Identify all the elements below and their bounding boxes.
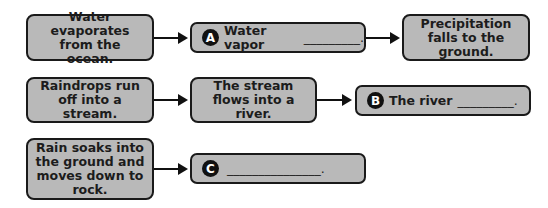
label-c-badge: C [202, 160, 219, 177]
label-a-badge: A [202, 29, 219, 46]
arrow-icon [366, 37, 398, 39]
arrow-icon [154, 99, 186, 101]
step-text: The stream flows into a river. [204, 79, 304, 121]
step-text: Rain soaks into the ground and moves dow… [31, 141, 149, 197]
arrow-icon [154, 168, 186, 170]
step-b-river: B The river _________. [355, 85, 531, 116]
step-text: The river [389, 94, 453, 108]
step-text: Raindrops run off into a stream. [35, 79, 145, 121]
answer-blank-a: _________. [304, 31, 364, 45]
step-c-blank: C _______________. [190, 153, 366, 184]
step-precipitation: Precipitation falls to the ground. [402, 14, 530, 61]
step-text: Precipitation falls to the ground. [411, 17, 521, 59]
label-b-badge: B [367, 92, 384, 109]
step-rain-soaks: Rain soaks into the ground and moves dow… [26, 138, 154, 200]
step-a-water-vapor: A Water vapor _________. [190, 22, 366, 53]
arrow-icon [317, 99, 350, 101]
arrow-icon [154, 37, 186, 39]
step-water-evaporates: Water evaporates from the ocean. [26, 14, 154, 61]
step-stream-flows: The stream flows into a river. [190, 77, 317, 123]
step-text: Water evaporates from the ocean. [35, 10, 145, 66]
step-raindrops-run-off: Raindrops run off into a stream. [26, 77, 154, 123]
step-text: Water vapor [224, 24, 299, 52]
answer-blank-b: _________. [458, 94, 518, 108]
answer-blank-c: _______________. [227, 162, 325, 176]
